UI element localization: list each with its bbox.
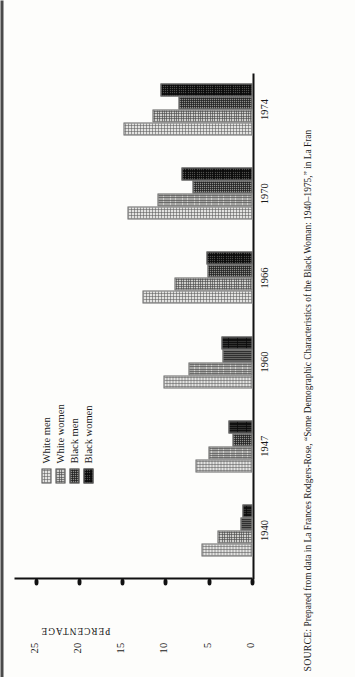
x-tick-label-1974: 1974 bbox=[258, 73, 269, 145]
source-note: SOURCE: Prepared from data in La Frances… bbox=[300, 5, 315, 671]
bar bbox=[222, 349, 252, 362]
bar bbox=[188, 362, 252, 375]
bar bbox=[195, 459, 252, 472]
bar bbox=[160, 83, 252, 96]
x-tick-label-1970: 1970 bbox=[258, 157, 269, 229]
bar-chart: PERCENTAGE 0510152025 194019471960196619… bbox=[14, 73, 276, 633]
bar-group-1947 bbox=[195, 420, 252, 472]
bar bbox=[142, 290, 252, 303]
bar-group-1966 bbox=[142, 251, 252, 303]
legend-item-0: White men bbox=[40, 404, 51, 483]
bar bbox=[192, 180, 252, 193]
y-tick-mark bbox=[77, 578, 81, 585]
bar bbox=[174, 277, 252, 290]
scan-edge-artifact bbox=[0, 0, 3, 677]
y-tick-label: 15 bbox=[114, 642, 125, 653]
x-tick-label-1940: 1940 bbox=[258, 494, 269, 566]
y-tick-mark bbox=[163, 578, 167, 585]
bar bbox=[181, 167, 252, 180]
figure-page: PERCENTAGE 0510152025 194019471960196619… bbox=[0, 0, 355, 677]
x-tick-label-1966: 1966 bbox=[258, 241, 269, 313]
bar bbox=[240, 517, 252, 530]
y-tick-label: 0 bbox=[244, 642, 255, 647]
bar bbox=[201, 543, 252, 556]
y-tick-label: 20 bbox=[71, 642, 82, 653]
legend-label: White women bbox=[54, 404, 65, 463]
bar-group-1970 bbox=[127, 167, 252, 219]
legend-swatch bbox=[55, 468, 65, 483]
legend-label: Black men bbox=[68, 418, 79, 463]
bar bbox=[178, 96, 252, 109]
legend-swatch bbox=[41, 468, 51, 483]
source-label: SOURCE: bbox=[301, 628, 312, 671]
bar-group-1960 bbox=[163, 336, 252, 388]
bar bbox=[217, 530, 252, 543]
bar bbox=[228, 420, 252, 433]
y-axis-title: PERCENTAGE bbox=[40, 625, 110, 635]
y-tick-mark bbox=[250, 578, 254, 585]
legend-item-1: White women bbox=[54, 404, 65, 483]
legend-label: Black women bbox=[82, 405, 93, 463]
bar-group-1940 bbox=[201, 504, 252, 556]
bar bbox=[208, 446, 252, 459]
rotated-page-wrapper: PERCENTAGE 0510152025 194019471960196619… bbox=[0, 0, 355, 677]
bar bbox=[123, 122, 252, 135]
bar bbox=[127, 206, 252, 219]
y-tick-label: 10 bbox=[157, 642, 168, 653]
bar bbox=[206, 251, 252, 264]
bar bbox=[242, 504, 252, 517]
source-text: Prepared from data in La Frances Rodgers… bbox=[302, 129, 312, 628]
x-tick-label-1947: 1947 bbox=[258, 410, 269, 482]
legend-label: White men bbox=[40, 417, 51, 463]
bar bbox=[163, 375, 252, 388]
bar bbox=[232, 433, 252, 446]
x-tick-label-1960: 1960 bbox=[258, 326, 269, 398]
legend-item-3: Black women bbox=[82, 404, 93, 483]
y-tick-mark bbox=[34, 578, 38, 585]
bar bbox=[157, 193, 252, 206]
y-tick-mark bbox=[207, 578, 211, 585]
bar bbox=[152, 109, 252, 122]
plot-area: 194019471960196619701974 bbox=[14, 73, 252, 578]
y-tick-label: 5 bbox=[201, 642, 212, 647]
chart-legend: White menWhite womenBlack menBlack women bbox=[40, 404, 93, 483]
legend-swatch bbox=[69, 468, 79, 483]
y-tick-mark bbox=[120, 578, 124, 585]
bar bbox=[207, 264, 252, 277]
legend-swatch bbox=[83, 468, 93, 483]
bar-group-1974 bbox=[123, 83, 252, 135]
bar bbox=[221, 336, 252, 349]
legend-item-2: Black men bbox=[68, 404, 79, 483]
y-tick-label: 25 bbox=[28, 642, 39, 653]
